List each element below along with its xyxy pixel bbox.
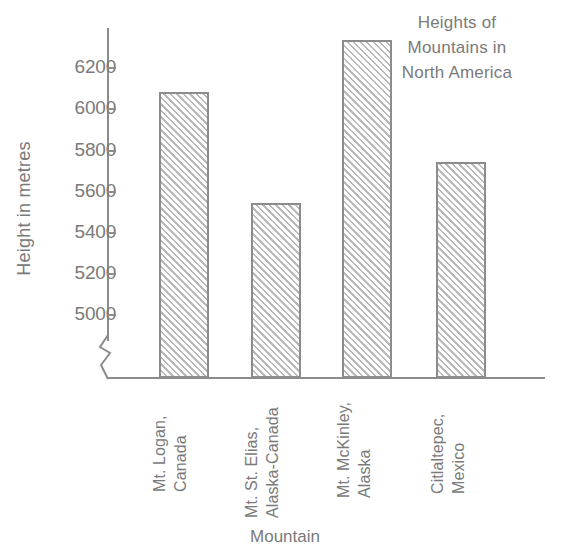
y-axis-title: Height in metres bbox=[14, 124, 35, 294]
category-label-mt-logan-line-1: Mt. Logan, bbox=[151, 415, 168, 492]
category-label-mt-mckinley-line-2: Alaska bbox=[354, 402, 375, 498]
y-tick-mark-5600 bbox=[107, 191, 116, 193]
category-label-citlaltepec-line-1: Citlaltepec, bbox=[429, 414, 446, 494]
category-label-citlaltepec: Citlaltepec, Mexico bbox=[427, 414, 469, 494]
category-label-mt-mckinley: Mt. McKinley, Alaska bbox=[333, 402, 375, 498]
y-tick-mark-5000 bbox=[107, 314, 116, 316]
bar-mt-st-elias bbox=[251, 203, 301, 378]
bar-mt-logan bbox=[159, 92, 209, 378]
category-label-mt-st-elias: Mt. St. Elias, Alaska-Canada bbox=[241, 407, 283, 518]
category-label-mt-st-elias-line-1: Mt. St. Elias, bbox=[243, 427, 260, 518]
chart-title-line-1: Heights of bbox=[352, 10, 562, 35]
axis-break-symbol bbox=[96, 333, 126, 381]
category-label-mt-logan: Mt. Logan, Canada bbox=[149, 415, 191, 492]
y-tick-mark-5200 bbox=[107, 273, 116, 275]
y-tick-mark-6200 bbox=[107, 67, 116, 69]
y-tick-mark-5400 bbox=[107, 232, 116, 234]
x-axis-title: Mountain bbox=[0, 527, 570, 547]
category-label-mt-logan-line-2: Canada bbox=[170, 415, 191, 492]
y-tick-mark-5800 bbox=[107, 150, 116, 152]
bar-citlaltepec bbox=[436, 162, 486, 378]
y-tick-mark-6000 bbox=[107, 108, 116, 110]
bar-mt-mckinley bbox=[342, 40, 392, 378]
bar-chart: Heights of Mountains in North America He… bbox=[0, 0, 570, 557]
category-label-mt-mckinley-line-1: Mt. McKinley, bbox=[335, 402, 352, 498]
category-label-mt-st-elias-line-2: Alaska-Canada bbox=[262, 407, 283, 518]
category-label-citlaltepec-line-2: Mexico bbox=[448, 414, 469, 494]
